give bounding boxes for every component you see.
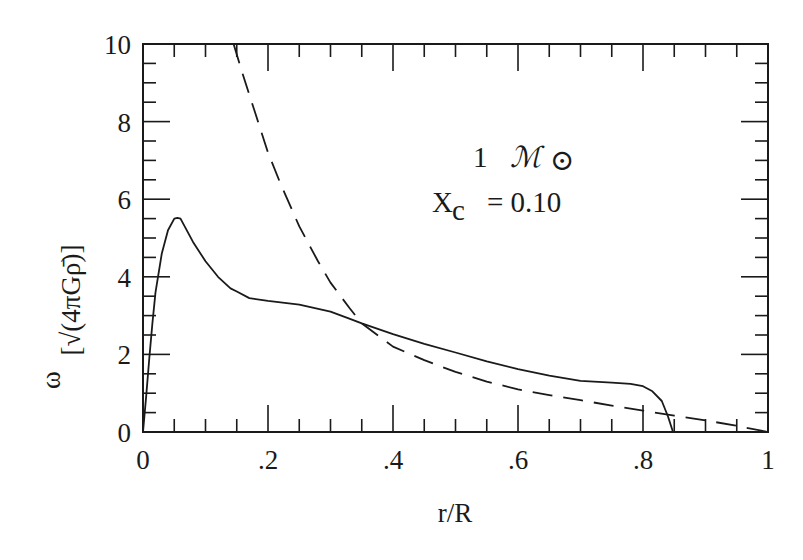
x-tick-label: .8: [633, 445, 653, 475]
chart: 0.2.4.6.810246810 r/R [√(4πGρ̄)] ω 1 ℳ ⊙…: [0, 0, 803, 560]
x-tick-label: .4: [383, 445, 404, 475]
x-axis-label: r/R: [438, 498, 473, 528]
solid-curve: [143, 218, 673, 432]
svg-text:c: c: [452, 194, 465, 226]
plot-frame: [143, 44, 768, 432]
y-tick-label: 0: [118, 418, 132, 448]
svg-text:ℳ: ℳ: [510, 140, 545, 174]
svg-text:⊙: ⊙: [550, 144, 574, 176]
curves: [143, 44, 768, 432]
y-tick-label: 10: [104, 30, 131, 60]
y-tick-label: 4: [118, 263, 132, 293]
y-tick-label: 8: [118, 108, 132, 138]
mass-annotation: 1 ℳ ⊙: [473, 140, 574, 176]
svg-text:1: 1: [473, 141, 488, 173]
x-tick-label: .6: [508, 445, 528, 475]
y-tick-label: 6: [118, 185, 132, 215]
svg-text:X: X: [432, 186, 453, 218]
x-tick-label: 1: [761, 445, 775, 475]
x-tick-label: 0: [136, 445, 150, 475]
svg-text:= 0.10: = 0.10: [487, 186, 561, 218]
y-tick-label: 2: [118, 340, 132, 370]
y-axis-units-label: [√(4πGρ̄)]: [56, 245, 86, 356]
dashed-curve: [234, 44, 768, 432]
y-axis-omega-label: ω: [36, 371, 66, 389]
x-tick-label: .2: [258, 445, 278, 475]
axis-ticks: [143, 44, 768, 432]
composition-annotation: X c = 0.10: [432, 186, 561, 226]
tick-labels: 0.2.4.6.810246810: [104, 30, 775, 475]
